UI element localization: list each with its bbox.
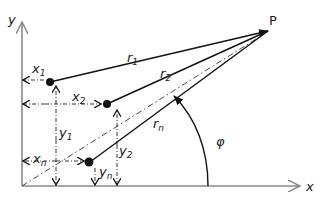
- label-x1: x1: [31, 61, 45, 78]
- vector-r1: [50, 31, 268, 82]
- point-p-label: P: [269, 13, 277, 28]
- reference-line: [22, 34, 264, 186]
- vector-r2: [107, 31, 268, 104]
- vector-diagram: x y P r1 r2 rn x1 x2 xn y1 y2 yn φ: [0, 0, 325, 201]
- point-1: [46, 78, 54, 86]
- point-2: [103, 100, 111, 108]
- point-n: [85, 158, 94, 167]
- label-r2: r2: [160, 66, 171, 83]
- y-axis-label: y: [7, 12, 16, 27]
- label-y2: y2: [118, 143, 133, 160]
- label-x2: x2: [71, 89, 86, 106]
- label-r1: r1: [127, 50, 138, 67]
- label-yn: yn: [98, 164, 113, 181]
- angle-arc: [174, 96, 208, 186]
- angle-label: φ: [216, 134, 225, 149]
- label-rn: rn: [153, 116, 164, 133]
- x-axis-label: x: [305, 179, 314, 194]
- label-y1: y1: [58, 125, 72, 142]
- label-xn: xn: [32, 151, 47, 168]
